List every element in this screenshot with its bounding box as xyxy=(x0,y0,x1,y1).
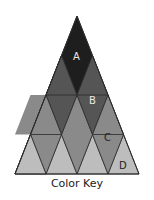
label-b: B xyxy=(89,95,96,106)
caption-color-key: Color Key xyxy=(0,177,154,190)
label-c: C xyxy=(104,132,111,143)
label-d: D xyxy=(119,160,127,171)
label-a: A xyxy=(73,51,80,62)
color-key-triangle: A B C D xyxy=(0,0,154,200)
